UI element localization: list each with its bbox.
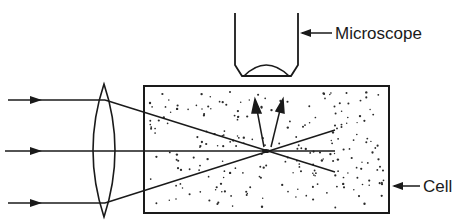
microscope-label-pointer [300,29,332,37]
incident-rays [5,100,335,203]
microscope-label: Microscope [335,24,422,43]
microscope [235,13,298,76]
arrow-right-icon [30,199,42,207]
arrow-right-icon [30,96,42,104]
arrow-up-icon [252,99,261,113]
cell-label-pointer [392,182,420,190]
arrow-left-icon [300,29,311,37]
ray-direction-arrows [30,96,42,207]
focal-point [262,149,270,153]
cell-label: Cell [423,177,452,196]
arrow-left-icon [392,182,403,190]
arrow-right-icon [30,147,42,155]
scattering-diagram: Microscope Cell [0,0,465,223]
scattered-light-arrows [252,99,284,147]
